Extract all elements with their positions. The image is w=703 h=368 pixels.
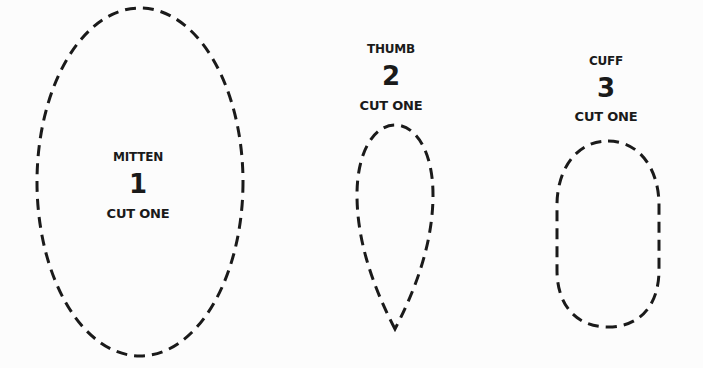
thumb-cut-instruction: CUT ONE bbox=[360, 99, 423, 112]
thumb-outline bbox=[357, 125, 433, 329]
mitten-pattern-sheet: MITTEN 1 CUT ONE THUMB 2 CUT ONE CUFF 3 … bbox=[0, 0, 703, 368]
mitten-piece-number: 1 bbox=[129, 171, 147, 197]
thumb-piece-number: 2 bbox=[382, 63, 400, 89]
cuff-cut-instruction: CUT ONE bbox=[575, 110, 638, 123]
cuff-piece-number: 3 bbox=[597, 75, 615, 101]
mitten-piece-name: MITTEN bbox=[113, 151, 163, 163]
cuff-piece-name: CUFF bbox=[589, 55, 623, 67]
cuff-outline bbox=[557, 141, 659, 327]
thumb-piece-name: THUMB bbox=[367, 43, 415, 55]
mitten-cut-instruction: CUT ONE bbox=[107, 207, 170, 220]
